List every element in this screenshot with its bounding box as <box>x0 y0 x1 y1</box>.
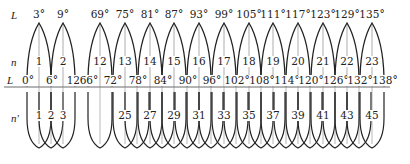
zone-number-n: 20 <box>290 56 305 67</box>
zone-number-n: 17 <box>216 56 231 67</box>
top-center-longitude-label: 99° <box>215 9 234 20</box>
zone-number-n-prime: 1 <box>35 110 44 121</box>
axis-longitude-label: 114° <box>274 75 299 86</box>
row-label-n-prime: n′ <box>11 113 19 124</box>
row-label-axis-L: L <box>7 75 13 86</box>
zone-number-n-prime: 2 <box>47 110 56 121</box>
zone-number-n-prime: 43 <box>339 110 354 121</box>
zone-number-n-prime: 25 <box>117 110 132 121</box>
axis-longitude-label: 126° <box>323 75 348 86</box>
zone-number-n-prime: 33 <box>216 110 231 121</box>
zone-number-n: 12 <box>92 56 107 67</box>
zone-number-n: 13 <box>117 56 132 67</box>
zone-number-n: 18 <box>241 56 256 67</box>
zone-number-n: 16 <box>191 56 206 67</box>
top-center-longitude-label: 117° <box>285 9 310 20</box>
zone-number-n: 1 <box>35 56 44 67</box>
top-center-longitude-label: 9° <box>57 9 69 20</box>
zone-number-n: 19 <box>265 56 280 67</box>
top-center-longitude-label: 105° <box>236 9 261 20</box>
zone-number-n-prime: 29 <box>166 110 181 121</box>
top-center-longitude-label: 81° <box>141 9 160 20</box>
top-center-longitude-label: 123° <box>310 9 335 20</box>
top-center-longitude-label: 129° <box>334 9 359 20</box>
top-center-longitude-label: 135° <box>359 9 384 20</box>
zone-number-n-prime: 37 <box>265 110 280 121</box>
top-center-longitude-label: 75° <box>116 9 135 20</box>
axis-longitude-label: 90° <box>179 75 198 86</box>
zone-numbering-diagram: L n L n′ 3°19°269°1275°1381°1487°1593°16… <box>0 0 410 164</box>
row-label-top-L: L <box>11 10 17 21</box>
zone-number-n-prime: 31 <box>191 110 206 121</box>
zone-number-n-prime: 35 <box>241 110 256 121</box>
row-label-n: n <box>11 57 17 68</box>
axis-longitude-label: 108° <box>249 75 274 86</box>
axis-longitude-label: 120° <box>298 75 323 86</box>
zone-number-n-prime: 3 <box>59 110 68 121</box>
top-center-longitude-label: 3° <box>33 9 45 20</box>
axis-longitude-label: 138° <box>372 75 397 86</box>
axis-longitude-label: 0° <box>22 75 34 86</box>
zone-number-n-prime: 39 <box>290 110 305 121</box>
top-center-longitude-label: 111° <box>260 9 285 20</box>
zone-number-n: 23 <box>364 56 379 67</box>
zone-number-n-prime: 45 <box>364 110 379 121</box>
axis-longitude-label: 72° <box>104 75 123 86</box>
axis-longitude-label: 132° <box>347 75 372 86</box>
axis-longitude-label: 102° <box>224 75 249 86</box>
zone-number-n-prime: 27 <box>142 110 157 121</box>
zone-number-n: 2 <box>59 56 68 67</box>
zone-number-n: 14 <box>142 56 157 67</box>
axis-longitude-label: 66° <box>80 75 99 86</box>
zone-number-n: 15 <box>166 56 181 67</box>
axis-longitude-label: 78° <box>129 75 148 86</box>
top-center-longitude-label: 93° <box>190 9 209 20</box>
zone-number-n: 21 <box>315 56 330 67</box>
axis-longitude-label: 6° <box>46 75 58 86</box>
top-center-longitude-label: 69° <box>91 9 110 20</box>
zone-number-n-prime: 41 <box>315 110 330 121</box>
axis-longitude-label: 96° <box>203 75 222 86</box>
top-center-longitude-label: 87° <box>165 9 184 20</box>
axis-longitude-label: 84° <box>154 75 173 86</box>
zone-number-n: 22 <box>339 56 354 67</box>
